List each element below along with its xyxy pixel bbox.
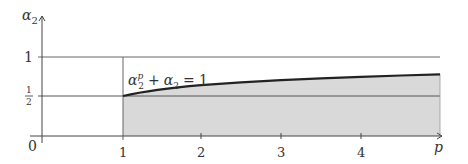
x-tick-label: 2 [197,145,205,160]
x-tick-label: 3 [277,145,285,160]
x-tick-label: 4 [357,145,365,160]
y-tick-label-1: 1 [24,49,33,65]
diagram-canvas: α2 1 1 2 0 1 2 3 4 p αp2+α2= 1 [0,0,468,164]
y-axis-label: α2 [22,7,38,26]
origin-label: 0 [28,138,37,154]
x-axis-label: p [434,139,443,155]
y-tick-label-half-num: 1 [26,85,32,95]
y-tick-label-half-den: 2 [26,97,32,107]
x-tick-label: 1 [119,145,127,160]
